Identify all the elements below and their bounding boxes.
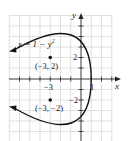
point-upper-label: (−3, 2) — [35, 61, 58, 71]
y-tick-label-2: 2 — [73, 52, 77, 62]
y-axis-arrow-icon — [79, 13, 84, 19]
curve-arrow-upper-icon — [9, 47, 17, 53]
point-lower-label: (−3, −2) — [35, 103, 63, 113]
point-lower — [48, 98, 52, 102]
y-axis-label: y — [71, 10, 76, 20]
x-axis-label: x — [114, 81, 119, 91]
point-upper — [48, 56, 52, 60]
x-tick-label-neg3: −3 — [44, 82, 53, 92]
equation-label: x = 1 − y2 — [17, 38, 55, 49]
x-tick-label-1: 1 — [90, 82, 94, 92]
y-tick-label-neg2: −2 — [69, 95, 78, 105]
parabola-chart: x = 1 − y2 (−3, 2) (−3, −2) −3 1 2 −2 x … — [0, 0, 128, 141]
